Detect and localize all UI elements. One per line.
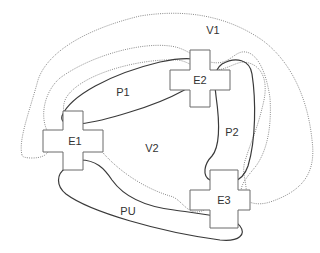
diagram-canvas: V1 V2 P1 P2 PU E1 E2 E3: [0, 0, 320, 253]
label-e1: E1: [68, 135, 81, 147]
diagram-svg: V1 V2 P1 P2 PU E1 E2 E3: [0, 0, 320, 253]
label-p1: P1: [116, 86, 129, 98]
label-v2: V2: [145, 142, 158, 154]
label-e3: E3: [217, 194, 230, 206]
region-v1-outline: [21, 13, 313, 204]
label-v1: V1: [206, 24, 219, 36]
label-pu: PU: [120, 205, 135, 217]
label-p2: P2: [225, 126, 238, 138]
label-e2: E2: [193, 74, 206, 86]
